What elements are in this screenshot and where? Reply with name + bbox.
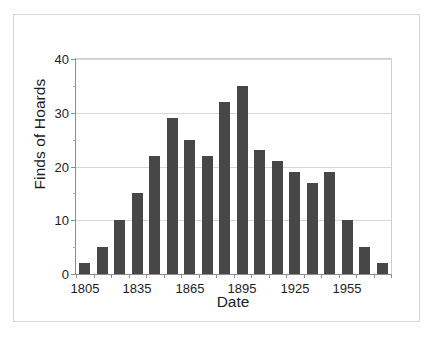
gridline-y-30: [76, 113, 391, 114]
bar: [219, 102, 230, 274]
x-tick: [199, 274, 200, 278]
bar: [377, 263, 388, 274]
y-minor-tick-25: [73, 140, 76, 141]
x-tick: [321, 274, 322, 278]
x-tick: [181, 274, 182, 278]
x-tick: [234, 274, 235, 278]
gridline-y-40: [76, 59, 391, 60]
bar: [289, 172, 300, 274]
y-tick-30: [71, 113, 76, 114]
bar: [79, 263, 90, 274]
y-minor-tick-35: [73, 86, 76, 87]
bar: [114, 220, 125, 274]
x-tick: [94, 274, 95, 278]
x-tick: [269, 274, 270, 278]
x-tick: [356, 274, 357, 278]
bar: [167, 118, 178, 274]
x-tick: [216, 274, 217, 278]
x-tick: [164, 274, 165, 278]
x-tick: [129, 274, 130, 278]
y-tick-label-10: 10: [55, 213, 69, 228]
bar: [272, 161, 283, 274]
bar: [307, 183, 318, 274]
x-tick: [251, 274, 252, 278]
x-tick: [146, 274, 147, 278]
figure-frame: Finds of Hoards 010203040 18051835186518…: [13, 14, 420, 322]
x-tick: [286, 274, 287, 278]
x-tick: [374, 274, 375, 278]
y-tick-label-20: 20: [55, 159, 69, 174]
y-tick-20: [71, 167, 76, 168]
x-tick: [304, 274, 305, 278]
bar: [359, 247, 370, 274]
x-axis-title: Date: [75, 293, 391, 311]
y-tick-40: [71, 59, 76, 60]
y-tick-label-30: 30: [55, 105, 69, 120]
y-minor-tick-15: [73, 193, 76, 194]
y-minor-tick-5: [73, 247, 76, 248]
bar: [254, 150, 265, 274]
y-tick-label-0: 0: [62, 267, 69, 282]
bar: [342, 220, 353, 274]
bar: [202, 156, 213, 274]
bar: [97, 247, 108, 274]
bar: [149, 156, 160, 274]
y-axis-title: Finds of Hoards: [31, 59, 49, 209]
bar: [237, 86, 248, 274]
x-tick: [339, 274, 340, 278]
bar-chart: Finds of Hoards 010203040 18051835186518…: [14, 15, 421, 323]
x-tick: [111, 274, 112, 278]
bar: [324, 172, 335, 274]
gridline-y-20: [76, 167, 391, 168]
x-tick: [391, 274, 392, 278]
y-tick-10: [71, 220, 76, 221]
bar: [132, 193, 143, 274]
plot-area: 010203040 180518351865189519251955: [75, 58, 392, 275]
y-tick-label-40: 40: [55, 52, 69, 67]
x-tick: [76, 274, 77, 278]
bar: [184, 140, 195, 274]
